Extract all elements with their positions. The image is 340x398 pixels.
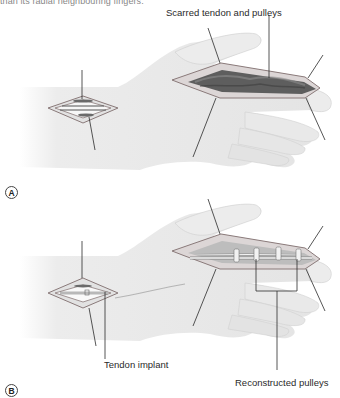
panel-badge-b: B	[5, 384, 18, 397]
panel-a-illustration	[0, 0, 340, 200]
thumb-shape	[175, 33, 261, 64]
panel-b-illustration	[0, 196, 340, 396]
label-tendon-implant: Tendon implant	[104, 359, 168, 370]
thumb-shape	[175, 204, 261, 235]
label-reconstructed-pulleys: Reconstructed pulleys	[235, 377, 328, 388]
